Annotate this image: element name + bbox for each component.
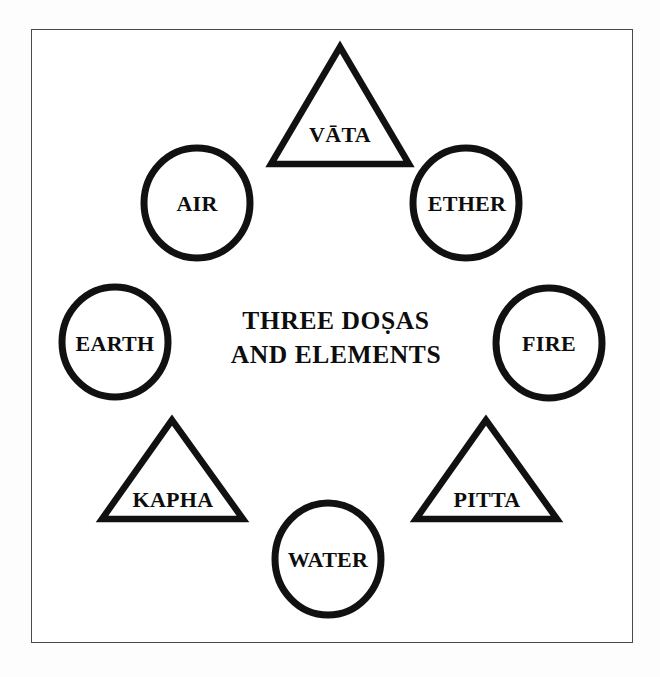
figure-page: VĀTA KAPHA PITTA AIR ETHER EARTH FIRE WA… [0, 0, 660, 677]
kapha-triangle-shape [102, 420, 243, 519]
fire-circle-shape [496, 288, 602, 398]
vata-triangle-shape [271, 47, 409, 164]
figure-title-line-2: AND ELEMENTS [231, 338, 442, 372]
figure-title-line-1: THREE DOṢAS [231, 304, 442, 338]
air-circle-shape [144, 148, 250, 258]
ether-circle-shape [413, 148, 519, 258]
water-circle-shape [275, 503, 381, 615]
pitta-triangle-shape [416, 420, 557, 519]
figure-center-title: THREE DOṢAS AND ELEMENTS [231, 304, 442, 371]
earth-circle-shape [62, 287, 168, 397]
